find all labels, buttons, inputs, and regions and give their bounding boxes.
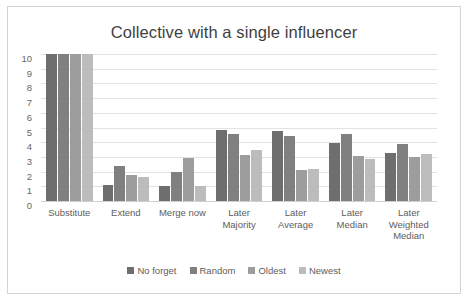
bar-random xyxy=(228,134,239,201)
plot-area xyxy=(41,54,437,201)
legend-item[interactable]: No forget xyxy=(127,266,176,276)
bar-oldest xyxy=(240,155,251,201)
bar-group xyxy=(380,54,437,201)
gridline-0 xyxy=(41,201,437,202)
legend-item[interactable]: Newest xyxy=(299,266,341,276)
chart-legend: No forgetRandomOldestNewest xyxy=(8,266,460,276)
bar-group xyxy=(98,54,155,201)
bar-random xyxy=(58,54,69,201)
chart-frame: Collective with a single influencer 1098… xyxy=(7,6,461,294)
x-axis-label: LaterAverage xyxy=(267,205,324,257)
legend-swatch-icon xyxy=(127,267,134,274)
bar-group xyxy=(154,54,211,201)
bar-random xyxy=(114,166,125,201)
x-axis-label: Extend xyxy=(98,205,155,257)
bar-oldest xyxy=(126,175,137,201)
bar-newest xyxy=(308,169,319,201)
bar-random xyxy=(341,134,352,201)
y-tick-label: 4 xyxy=(8,142,32,152)
bar-no-forget xyxy=(46,54,57,201)
legend-swatch-icon xyxy=(190,267,197,274)
bar-no-forget xyxy=(272,131,283,201)
bar-group xyxy=(267,54,324,201)
bar-newest xyxy=(82,54,93,201)
bar-oldest xyxy=(183,158,194,201)
y-axis: 109876543210 xyxy=(8,48,36,207)
bar-oldest xyxy=(409,157,420,201)
bar-newest xyxy=(421,154,432,201)
bar-oldest xyxy=(70,54,81,201)
chart-title: Collective with a single influencer xyxy=(8,23,460,42)
legend-swatch-icon xyxy=(299,267,306,274)
bar-group xyxy=(211,54,268,201)
bar-oldest xyxy=(353,156,364,201)
legend-label: Newest xyxy=(309,266,341,276)
y-tick-label: 8 xyxy=(8,83,32,93)
bar-newest xyxy=(138,177,149,201)
y-tick-label: 6 xyxy=(8,113,32,123)
bar-random xyxy=(171,172,182,201)
bar-newest xyxy=(195,186,206,201)
bar-no-forget xyxy=(329,143,340,201)
bar-newest xyxy=(365,159,376,201)
x-axis: SubstituteExtendMerge nowLaterMajorityLa… xyxy=(41,205,437,257)
x-axis-label: LaterWeightedMedian xyxy=(380,205,437,257)
bar-no-forget xyxy=(159,186,170,201)
y-tick-label: 3 xyxy=(8,157,32,167)
bar-random xyxy=(284,136,295,201)
bar-newest xyxy=(251,150,262,201)
bar-group xyxy=(41,54,98,201)
legend-label: Oldest xyxy=(258,266,285,276)
x-axis-label: LaterMedian xyxy=(324,205,381,257)
x-axis-label: Merge now xyxy=(154,205,211,257)
y-tick-label: 5 xyxy=(8,128,32,138)
x-axis-label: Substitute xyxy=(41,205,98,257)
legend-item[interactable]: Random xyxy=(190,266,236,276)
y-tick-label: 10 xyxy=(8,54,32,64)
y-tick-label: 9 xyxy=(8,69,32,79)
y-tick-label: 0 xyxy=(8,201,32,211)
legend-label: Random xyxy=(200,266,236,276)
legend-swatch-icon xyxy=(248,267,255,274)
y-tick-label: 7 xyxy=(8,98,32,108)
bar-random xyxy=(397,144,408,201)
legend-label: No forget xyxy=(137,266,176,276)
bar-oldest xyxy=(296,170,307,201)
bar-groups xyxy=(41,54,437,201)
bar-no-forget xyxy=(103,185,114,201)
bar-no-forget xyxy=(385,153,396,202)
y-tick-label: 2 xyxy=(8,172,32,182)
legend-item[interactable]: Oldest xyxy=(248,266,285,276)
bar-group xyxy=(324,54,381,201)
x-axis-label: LaterMajority xyxy=(211,205,268,257)
y-tick-label: 1 xyxy=(8,186,32,196)
bar-no-forget xyxy=(216,130,227,201)
